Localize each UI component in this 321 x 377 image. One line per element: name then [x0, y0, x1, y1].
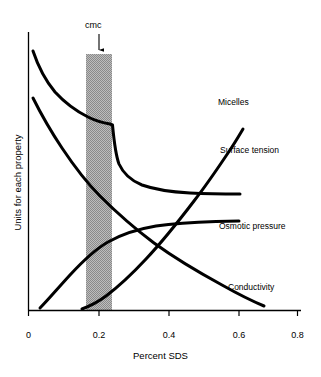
- x-axis-ticks: [29, 311, 298, 317]
- curve-surface-tension: [33, 51, 240, 194]
- x-tick-label-1: 0.2: [87, 330, 111, 340]
- x-axis-title: Percent SDS: [0, 350, 321, 361]
- chart-plot-area: [0, 0, 321, 377]
- series-label-conductivity: Conductivity: [228, 283, 274, 292]
- curve-conductivity: [33, 98, 264, 306]
- x-tick-label-2: 0.4: [157, 330, 181, 340]
- cmc-label: cmc: [85, 21, 102, 30]
- series-label-surface-tension: Surface tension: [220, 146, 279, 155]
- cmc-shaded-band: [86, 54, 112, 310]
- series-label-osmotic-pressure: Osmotic pressure: [219, 222, 286, 231]
- x-tick-label-0: 0: [17, 330, 41, 340]
- surfactant-property-chart: cmc Micelles Surface tension Osmotic pre…: [0, 0, 321, 377]
- series-label-micelles: Micelles: [218, 98, 249, 107]
- x-tick-label-4: 0.8: [286, 330, 310, 340]
- x-tick-label-3: 0.6: [227, 330, 251, 340]
- y-axis-title: Units for each property: [12, 103, 23, 263]
